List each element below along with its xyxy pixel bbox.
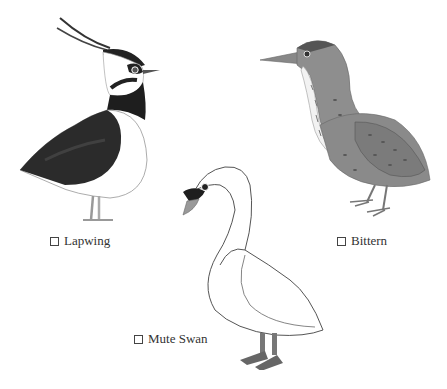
option-lapwing-label: Lapwing — [64, 233, 110, 249]
option-lapwing[interactable]: Lapwing — [50, 233, 110, 249]
lapwing-illustration — [15, 10, 165, 225]
checkbox-icon[interactable] — [134, 335, 143, 344]
checkbox-icon[interactable] — [337, 237, 346, 246]
option-mute-swan[interactable]: Mute Swan — [134, 331, 208, 347]
option-bittern-label: Bittern — [351, 233, 387, 249]
option-bittern[interactable]: Bittern — [337, 233, 387, 249]
option-mute-swan-label: Mute Swan — [148, 331, 208, 347]
checkbox-icon[interactable] — [50, 237, 59, 246]
